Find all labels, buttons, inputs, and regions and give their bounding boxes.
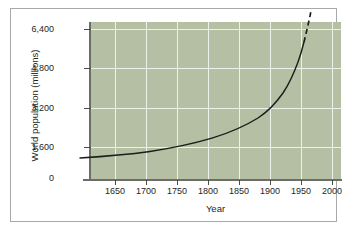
plot-area [90,22,341,179]
gridline-vertical-1800 [208,22,209,179]
gridline-horizontal-1600 [90,147,341,148]
gridline-vertical-1650 [115,22,116,179]
x-tick-label-1650: 1650 [100,187,130,196]
gridline-vertical-1950 [301,22,302,179]
x-tick-2000 [332,180,333,185]
x-tick-1750 [177,180,178,185]
x-tick-1700 [146,180,147,185]
y-tick-label-0: 0 [49,174,54,183]
y-tick-1600 [84,147,91,148]
gridline-vertical-2000 [332,22,333,179]
x-axis-title: Year [90,203,341,214]
gridline-horizontal-3200 [90,108,341,109]
x-axis-line [83,179,342,181]
gridline-horizontal-6400 [90,29,341,30]
gridline-vertical-1750 [177,22,178,179]
y-axis-title: World population (millions) [29,36,40,176]
x-tick-label-2000: 2000 [317,187,347,196]
gridline-horizontal-4800 [90,68,341,69]
y-tick-3200 [84,108,91,109]
y-axis-line [89,22,91,181]
x-tick-1650 [115,180,116,185]
y-tick-6400 [84,29,91,30]
x-tick-1800 [208,180,209,185]
y-tick-label-6400: 6,400 [31,25,54,34]
x-tick-1850 [239,180,240,185]
figure-container: 6,400 4,800 3,200 1,600 0 1650 1700 1750… [0,0,352,232]
x-tick-label-1700: 1700 [131,187,161,196]
x-tick-1950 [301,180,302,185]
gridline-vertical-1900 [270,22,271,179]
gridline-vertical-1700 [146,22,147,179]
y-tick-4800 [84,68,91,69]
x-tick-label-1750: 1750 [162,187,192,196]
gridline-vertical-1850 [239,22,240,179]
x-tick-1900 [270,180,271,185]
x-tick-label-1900: 1900 [255,187,285,196]
x-tick-label-1850: 1850 [224,187,254,196]
figure-frame: 6,400 4,800 3,200 1,600 0 1650 1700 1750… [10,8,337,222]
x-tick-label-1800: 1800 [193,187,223,196]
x-tick-label-1950: 1950 [286,187,316,196]
